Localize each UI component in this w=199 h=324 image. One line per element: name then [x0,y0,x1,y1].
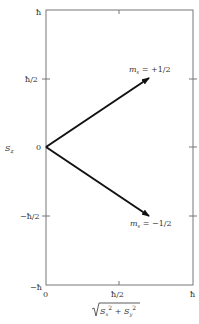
tick-y-neg-half: −ħ/2 [20,212,40,221]
tick-x-full: ħ [190,290,195,299]
vector-spin-up [46,78,149,147]
label-spin-down: ms = −1/2 [130,219,172,229]
vector-spin-down [46,147,149,216]
y-axis-label: Sz [5,144,14,154]
ticks [42,10,197,285]
tick-y-top: ħ [36,8,41,17]
x-axis-label: Sx2 + Sy2 [92,303,140,318]
label-spin-up: ms = +1/2 [129,65,171,75]
tick-y-bottom: −ħ [30,283,42,292]
spin-vector-diagram: ħ ħ/2 0 −ħ/2 −ħ Sz 0 ħ/2 ħ Sx2 + Sy2 ms … [0,0,199,324]
plot-frame [46,10,193,285]
tick-y-half: ħ/2 [25,75,38,84]
tick-x-zero: 0 [43,290,48,299]
svg-text:Sx2 + Sy2: Sx2 + Sy2 [100,304,136,318]
tick-y-zero: 0 [36,143,41,152]
tick-x-half: ħ/2 [111,290,124,299]
